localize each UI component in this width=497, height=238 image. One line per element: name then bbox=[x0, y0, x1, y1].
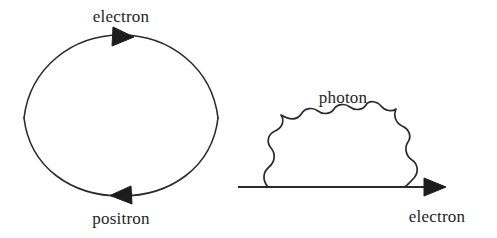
self-energy-electron-label: electron bbox=[409, 207, 466, 226]
feynman-diagram-canvas: electron positron photon electron bbox=[0, 0, 497, 238]
loop-positron-label: positron bbox=[92, 209, 150, 228]
self-energy-diagram: photon electron bbox=[238, 88, 465, 226]
photon-wavy-arc bbox=[264, 102, 417, 187]
photon-label: photon bbox=[319, 88, 368, 107]
loop-diagram: electron positron bbox=[24, 7, 218, 228]
positron-loop-lower-arc bbox=[24, 118, 218, 196]
positron-direction-arrowhead bbox=[110, 186, 132, 204]
electron-direction-arrowhead bbox=[112, 27, 134, 46]
electron-loop-upper-arc bbox=[24, 35, 218, 118]
loop-electron-label: electron bbox=[93, 7, 150, 26]
feynman-diagram-figure: electron positron photon electron bbox=[0, 0, 497, 238]
electron-line-arrowhead bbox=[424, 178, 446, 196]
